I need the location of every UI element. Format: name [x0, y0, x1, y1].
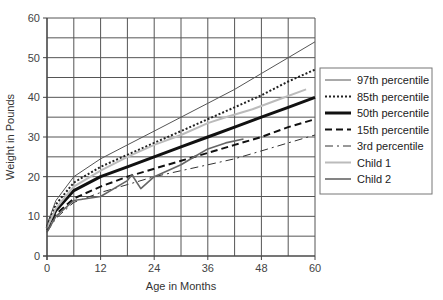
x-tick-label: 24: [148, 262, 160, 274]
grid-lines: [47, 18, 315, 256]
legend-label: 3rd percentile: [357, 140, 424, 152]
legend-label: Child 2: [357, 173, 391, 185]
legend: 97th percentile85th percentile50th perce…: [320, 68, 432, 194]
y-axis-ticks: 0102030405060: [28, 12, 47, 262]
y-tick-label: 30: [28, 131, 40, 143]
growth-chart: 0102030405060 01224364860 Age in Months …: [0, 0, 443, 300]
x-axis-title: Age in Months: [146, 280, 217, 292]
legend-label: 50th percentile: [357, 107, 429, 119]
x-tick-label: 60: [309, 262, 321, 274]
x-tick-label: 12: [94, 262, 106, 274]
y-tick-label: 40: [28, 91, 40, 103]
x-tick-label: 36: [202, 262, 214, 274]
y-tick-label: 50: [28, 52, 40, 64]
x-tick-label: 48: [255, 262, 267, 274]
y-axis-title: Weight in Pounds: [4, 93, 16, 180]
y-tick-label: 10: [28, 210, 40, 222]
y-tick-label: 0: [34, 250, 40, 262]
legend-label: Child 1: [357, 157, 391, 169]
legend-label: 97th percentile: [357, 74, 429, 86]
x-tick-label: 0: [44, 262, 50, 274]
x-axis-ticks: 01224364860: [44, 256, 321, 274]
y-tick-label: 60: [28, 12, 40, 24]
series-child-1: [47, 89, 306, 228]
legend-label: 15th percentile: [357, 124, 429, 136]
legend-label: 85th percentile: [357, 91, 429, 103]
axes: [43, 18, 315, 260]
y-tick-label: 20: [28, 171, 40, 183]
